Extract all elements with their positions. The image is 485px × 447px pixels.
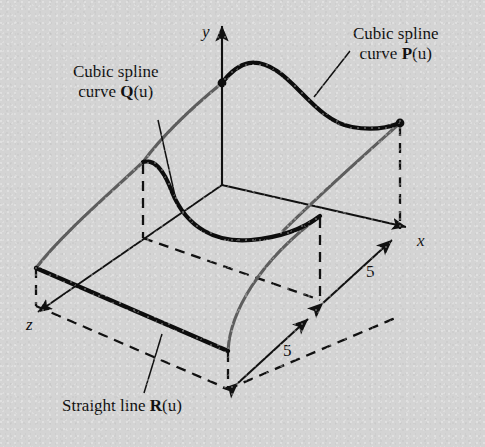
p-curve-start-point	[218, 79, 227, 88]
z-axis	[38, 185, 222, 312]
figure-canvas: Cubic spline curve P(u) Cubic spline cur…	[0, 0, 485, 447]
label-q-symbol: Q	[120, 82, 133, 101]
label-p-line2: curve P(u)	[353, 44, 438, 64]
dimension-arrow-z	[238, 319, 308, 383]
dashed-base-edge-left	[36, 306, 228, 389]
leader-line-p	[314, 51, 350, 97]
label-cubic-spline-curve-p: Cubic spline curve P(u)	[353, 24, 438, 64]
label-r-prefix: Straight line	[62, 396, 150, 415]
dimension-label-z: 5	[283, 341, 292, 361]
label-p-line1: Cubic spline	[353, 24, 438, 44]
label-p-symbol: P	[402, 44, 412, 63]
dimension-arrow-x	[323, 240, 392, 303]
label-r-line: Straight line R(u)	[62, 396, 182, 416]
dashed-base-edge-front-right	[228, 316, 400, 389]
label-r-suffix: (u)	[162, 396, 182, 415]
label-r-symbol: R	[150, 396, 162, 415]
label-p-prefix: curve	[360, 44, 402, 63]
label-straight-line-r: Straight line R(u)	[62, 396, 182, 416]
label-q-suffix: (u)	[133, 82, 153, 101]
rail-curve-left	[36, 162, 143, 268]
cubic-spline-curve-p	[222, 63, 400, 129]
label-x-axis: x	[417, 231, 425, 251]
label-z-axis: z	[26, 315, 33, 335]
dashed-base-edge-back-right	[143, 238, 320, 300]
straight-line-r	[36, 268, 228, 351]
dimension-label-x: 5	[366, 262, 375, 282]
leader-line-r	[144, 334, 162, 393]
rail-curve-group	[36, 83, 400, 351]
dashed-construction-group	[36, 126, 400, 389]
rail-curve-right	[283, 123, 400, 231]
leader-line-q	[158, 120, 175, 196]
label-q-prefix: curve	[78, 82, 120, 101]
p-curve-end-point	[396, 119, 405, 128]
label-p-suffix: (u)	[412, 44, 432, 63]
label-q-line2: curve Q(u)	[73, 82, 158, 102]
label-q-line1: Cubic spline	[73, 62, 158, 82]
label-cubic-spline-curve-q: Cubic spline curve Q(u)	[73, 62, 158, 102]
label-y-axis: y	[202, 22, 210, 42]
